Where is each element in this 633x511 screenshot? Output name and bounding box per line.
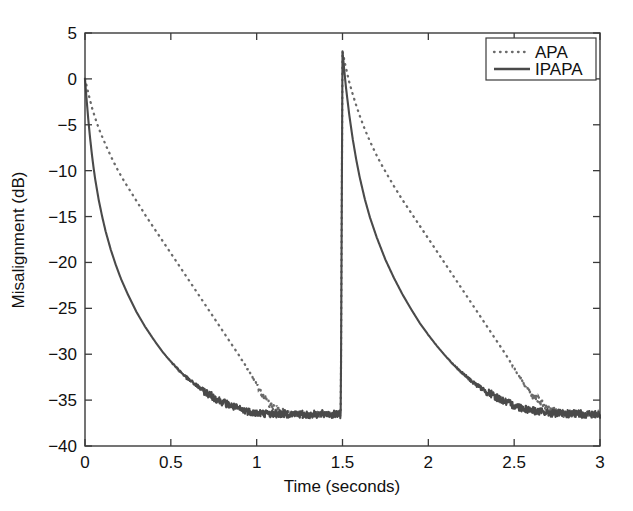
x-tick-label: 2: [424, 453, 433, 472]
y-tick-label: −35: [48, 391, 77, 410]
x-tick-label: 1: [252, 453, 261, 472]
y-tick-label: −20: [48, 253, 77, 272]
misalignment-plot: 00.511.522.53 50−5−10−15−20−25−30−35−40 …: [0, 0, 633, 511]
x-tick-label: 3: [595, 453, 604, 472]
y-tick-label: 0: [68, 70, 77, 89]
y-axis-title: Misalignment (dB): [9, 172, 28, 309]
y-tick-label: −25: [48, 299, 77, 318]
chart-figure: 00.511.522.53 50−5−10−15−20−25−30−35−40 …: [0, 0, 633, 511]
y-tick-label: −30: [48, 345, 77, 364]
y-tick-label: −15: [48, 208, 77, 227]
y-tick-label: 5: [68, 24, 77, 43]
x-tick-label: 0.5: [159, 453, 183, 472]
y-tick-label: −5: [58, 116, 77, 135]
x-tick-label: 1.5: [331, 453, 355, 472]
x-tick-label: 0: [80, 453, 89, 472]
y-tick-label: −40: [48, 437, 77, 456]
legend-label-ipapa: IPAPA: [535, 60, 583, 79]
x-tick-label: 2.5: [502, 453, 526, 472]
y-tick-label: −10: [48, 162, 77, 181]
x-axis-tick-labels: 00.511.522.53: [80, 453, 604, 472]
y-axis-tick-labels: 50−5−10−15−20−25−30−35−40: [48, 24, 77, 456]
x-axis-title: Time (seconds): [284, 477, 401, 496]
legend: APA IPAPA: [486, 38, 596, 80]
